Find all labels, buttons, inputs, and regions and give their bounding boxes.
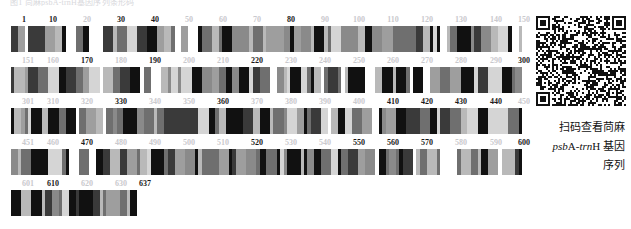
gene-h-suffix: H 基因 (592, 140, 625, 152)
ruler-tick: 30 (117, 14, 125, 25)
ruler-tick: 290 (490, 55, 502, 66)
barcode-bar (161, 67, 168, 93)
barcode-bar (461, 108, 468, 134)
barcode-bar (93, 67, 100, 93)
barcode-bar (202, 67, 212, 93)
barcode-bar (48, 149, 55, 175)
barcode-bar (236, 149, 246, 175)
row-ruler: 1102030405060708090100110120130140150 (11, 14, 522, 26)
barcode-bar (328, 67, 338, 93)
barcode-bar (103, 67, 113, 93)
barcode-bar (239, 26, 249, 52)
ruler-tick: 620 (81, 178, 93, 189)
barcode-bar (450, 67, 460, 93)
barcode-bar (396, 67, 406, 93)
barcode-bar (270, 67, 277, 93)
barcode-bar (450, 108, 460, 134)
barcode-bar (239, 67, 249, 93)
ruler-tick: 170 (81, 55, 93, 66)
barcode-bar (86, 190, 93, 216)
barcode-bar (14, 67, 21, 93)
barcode-bar (266, 149, 273, 175)
row-ruler: 3013103203303403503603703803904004104204… (11, 96, 522, 108)
barcode-bar (110, 149, 120, 175)
barcode-bar (243, 108, 253, 134)
barcode-bar (185, 149, 195, 175)
barcode-bar (144, 108, 154, 134)
barcode-bar (202, 149, 209, 175)
barcode-bar (59, 108, 66, 134)
barcode-bar (362, 108, 372, 134)
row-ruler: 1511601701801902002102202302402502602702… (11, 55, 522, 67)
barcode-bar (144, 67, 151, 93)
barcode-bar (440, 67, 450, 93)
barcode-bar (253, 26, 263, 52)
barcode-bar (113, 67, 120, 93)
ruler-tick: 200 (183, 55, 195, 66)
barcode-bar (430, 108, 437, 134)
barcode-bar (321, 149, 331, 175)
barcode-bar (461, 149, 471, 175)
barcode-bar (31, 190, 41, 216)
barcode-bar (137, 26, 147, 52)
barcode-bar (188, 108, 195, 134)
barcode-bar (38, 149, 48, 175)
barcode-bar (290, 67, 300, 93)
barcode-bar (83, 67, 90, 93)
barcode-bar (423, 67, 430, 93)
ruler-tick: 520 (251, 137, 263, 148)
barcode-bar (151, 149, 158, 175)
barcode-bar (83, 26, 90, 52)
barcode-bar (382, 67, 392, 93)
barcode-bar (266, 26, 273, 52)
barcode-bar (212, 67, 219, 93)
ruler-tick: 151 (22, 55, 34, 66)
barcode-bar (45, 190, 52, 216)
barcode-bar (498, 26, 508, 52)
barcode-bar (79, 190, 86, 216)
ruler-tick: 240 (319, 55, 331, 66)
barcode-bar (318, 26, 325, 52)
barcode-bar (86, 108, 96, 134)
barcode-bar (515, 67, 522, 93)
barcode-bar (219, 108, 226, 134)
barcode-bar (192, 67, 202, 93)
barcode-bar (28, 67, 38, 93)
ruler-tick: 270 (421, 55, 433, 66)
barcode-bar (120, 149, 127, 175)
barcode-bar (253, 108, 260, 134)
barcode-bar (164, 26, 171, 52)
ruler-tick: 470 (81, 137, 93, 148)
barcode-bar (246, 149, 256, 175)
barcode-bar (311, 108, 321, 134)
ruler-tick: 430 (455, 96, 467, 107)
barcode-bar (287, 108, 297, 134)
barcode-bar (427, 149, 437, 175)
barcode-bar (175, 26, 182, 52)
barcode-bar (120, 67, 130, 93)
ruler-tick: 630 (115, 178, 127, 189)
ruler-tick: 190 (149, 55, 161, 66)
barcode-bar (89, 26, 99, 52)
barcode-bar (416, 26, 423, 52)
ruler-tick: 230 (285, 55, 297, 66)
barcode-bar (358, 149, 365, 175)
barcode-bar (164, 108, 174, 134)
barcode-bar (76, 26, 83, 52)
ruler-tick: 130 (455, 14, 467, 25)
barcode-bar (168, 149, 175, 175)
barcode-bar (444, 108, 451, 134)
barcode-bar (117, 26, 127, 52)
ruler-tick: 300 (518, 55, 530, 66)
qr-code-icon[interactable] (536, 16, 626, 106)
barcode-bar (331, 26, 341, 52)
ruler-tick: 320 (81, 96, 93, 107)
barcode-bar (348, 67, 358, 93)
barcode-bar (55, 26, 62, 52)
ruler-tick: 360 (217, 96, 229, 107)
ruler-tick: 370 (251, 96, 263, 107)
ruler-tick: 80 (287, 14, 295, 25)
barcode-bar (294, 26, 301, 52)
ruler-tick: 460 (47, 137, 59, 148)
barcode-bar (372, 108, 379, 134)
